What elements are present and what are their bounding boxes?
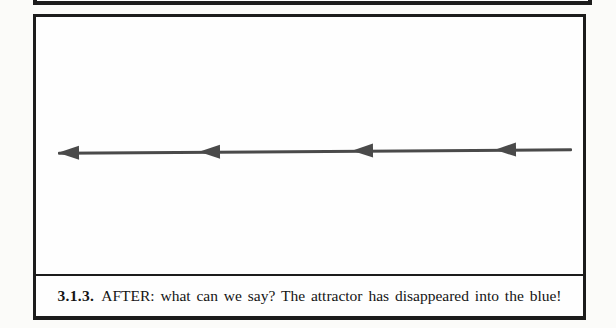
flow-arrow-group — [58, 142, 572, 161]
left-arrowhead-icon — [58, 146, 79, 160]
scanned-document-page: 3.1.3. AFTER: what can we say? The attra… — [0, 0, 616, 328]
left-arrowhead-icon — [352, 144, 373, 158]
caption-text: AFTER: what can we say? The attractor ha… — [101, 287, 561, 305]
left-arrowhead-icon — [199, 145, 220, 159]
figure-caption: 3.1.3. AFTER: what can we say? The attra… — [36, 274, 583, 316]
caption-number: 3.1.3. — [58, 287, 95, 305]
previous-figure-frame-partial — [33, 0, 592, 5]
left-arrowhead-icon — [495, 143, 516, 157]
phase-line-drawing — [36, 17, 583, 274]
figure-box: 3.1.3. AFTER: what can we say? The attra… — [33, 14, 586, 320]
